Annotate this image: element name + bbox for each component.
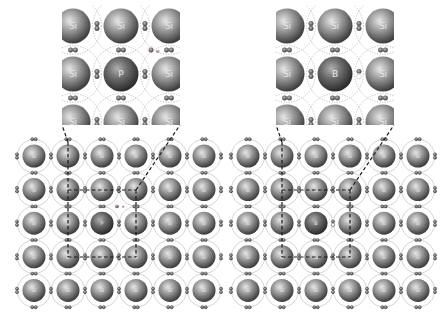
valence-electron-icon <box>185 190 188 193</box>
valence-electron-icon <box>15 257 18 260</box>
valence-electron-icon <box>384 272 387 275</box>
valence-electron-icon <box>133 138 136 141</box>
silicon-atom: Si <box>333 274 366 307</box>
silicon-atom: Si <box>153 207 186 240</box>
valence-electron-icon <box>201 171 204 174</box>
valence-electron-icon <box>415 205 418 208</box>
silicon-atom: Si <box>231 207 264 240</box>
valence-electron-icon <box>143 26 148 31</box>
valence-electron-icon <box>117 287 120 290</box>
valence-electron-icon <box>95 69 100 74</box>
valence-electron-icon <box>47 26 52 31</box>
atom-label: Si <box>66 288 70 293</box>
valence-electron-icon <box>331 254 334 257</box>
valence-electron-icon <box>151 223 154 226</box>
silicon-atom: Si <box>231 173 264 206</box>
valence-electron-icon <box>151 186 154 189</box>
valence-electron-icon <box>151 257 154 260</box>
valence-electron-icon <box>365 287 368 290</box>
valence-electron-icon <box>282 272 285 275</box>
valence-electron-icon <box>282 0 287 4</box>
valence-electron-icon <box>282 96 287 101</box>
atom-label: B <box>314 221 317 226</box>
valence-electron-icon <box>219 190 222 193</box>
valence-electron-icon <box>350 171 353 174</box>
valence-electron-icon <box>185 153 188 156</box>
valence-electron-icon <box>245 238 248 241</box>
valence-electron-icon <box>151 153 154 156</box>
valence-electron-icon <box>415 238 418 241</box>
silicon-atom: Si <box>367 139 400 172</box>
valence-electron-icon <box>83 287 86 290</box>
valence-electron-icon <box>415 138 418 141</box>
atom-label: Si <box>165 21 173 31</box>
valence-electron-icon <box>418 171 421 174</box>
silicon-atom: Si <box>367 173 400 206</box>
valence-electron-icon <box>136 272 139 275</box>
valence-electron-icon <box>384 238 387 241</box>
valence-electron-icon <box>143 122 148 127</box>
valence-electron-icon <box>384 171 387 174</box>
atom-label: Si <box>168 255 172 260</box>
valence-electron-icon <box>282 48 287 53</box>
valence-electron-icon <box>248 205 251 208</box>
valence-electron-icon <box>313 138 316 141</box>
valence-electron-icon <box>335 96 340 101</box>
valence-electron-icon <box>297 290 300 293</box>
silicon-atom: Si <box>85 139 118 172</box>
valence-electron-icon <box>68 96 73 101</box>
valence-electron-icon <box>350 306 353 309</box>
valence-electron-icon <box>49 287 52 290</box>
valence-electron-icon <box>201 205 204 208</box>
valence-electron-icon <box>261 74 266 79</box>
valence-electron-icon <box>347 306 350 309</box>
atom-label: Si <box>379 117 387 127</box>
silicon-atom: Si <box>153 240 186 273</box>
silicon-atom: Si <box>17 207 50 240</box>
valence-electron-icon <box>49 257 52 260</box>
valence-electron-icon <box>167 272 170 275</box>
valence-electron-icon <box>31 306 34 309</box>
valence-electron-icon <box>433 257 436 260</box>
valence-electron-icon <box>34 138 37 141</box>
silicon-atom: Si <box>187 173 220 206</box>
silicon-atom: Si <box>401 240 434 273</box>
valence-electron-icon <box>143 74 148 79</box>
valence-electron-icon <box>399 254 402 257</box>
valence-electron-icon <box>297 153 300 156</box>
valence-electron-icon <box>365 254 368 257</box>
atom-label: Si <box>202 255 206 260</box>
valence-electron-icon <box>95 74 100 79</box>
lattice-grids: SiSiSiSiSiSiSiSiSiSiSiSiSiSiPSiSiSiSiSiS… <box>15 138 436 309</box>
valence-electron-icon <box>263 153 266 156</box>
valence-electron-icon <box>405 21 410 26</box>
valence-electron-icon <box>102 272 105 275</box>
valence-electron-icon <box>219 290 222 293</box>
silicon-atom: Si <box>153 173 186 206</box>
valence-electron-icon <box>309 74 314 79</box>
valence-electron-icon <box>418 138 421 141</box>
valence-electron-icon <box>151 287 154 290</box>
valence-electron-icon <box>335 48 340 53</box>
valence-electron-icon <box>383 96 388 101</box>
valence-electron-icon <box>399 220 402 223</box>
valence-electron-icon <box>133 171 136 174</box>
valence-electron-icon <box>191 122 196 127</box>
valence-electron-icon <box>279 306 282 309</box>
valence-electron-icon <box>229 153 232 156</box>
atom-label: Si <box>283 21 291 31</box>
valence-electron-icon <box>415 306 418 309</box>
valence-electron-icon <box>229 290 232 293</box>
valence-electron-icon <box>330 96 335 101</box>
valence-electron-icon <box>229 287 232 290</box>
valence-electron-icon <box>433 156 436 159</box>
atom-label: Si <box>165 117 173 127</box>
valence-electron-icon <box>116 48 121 53</box>
valence-electron-icon <box>399 156 402 159</box>
valence-electron-icon <box>121 48 126 53</box>
valence-electron-icon <box>117 254 120 257</box>
atom-label: P <box>101 221 104 226</box>
valence-electron-icon <box>316 171 319 174</box>
silicon-atom: Si <box>85 173 118 206</box>
valence-electron-icon <box>151 290 154 293</box>
